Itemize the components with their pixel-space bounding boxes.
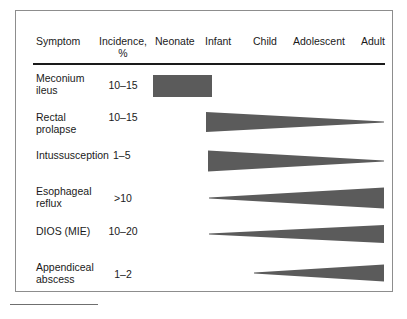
figure-frame: Symptom Incidence, % Neonate Infant Chil… [15,10,393,292]
shape-esophageal-reflux [209,188,384,209]
age-distribution-shapes [16,11,394,293]
shape-dios-mie [209,225,384,243]
page-edge-artifact [10,304,98,305]
shape-intussusception [208,151,384,172]
shape-appendiceal-abscess [254,265,384,282]
shapes-canvas [16,11,394,293]
shape-meconium-ileus [153,75,212,97]
shape-rectal-prolapse [206,112,384,132]
